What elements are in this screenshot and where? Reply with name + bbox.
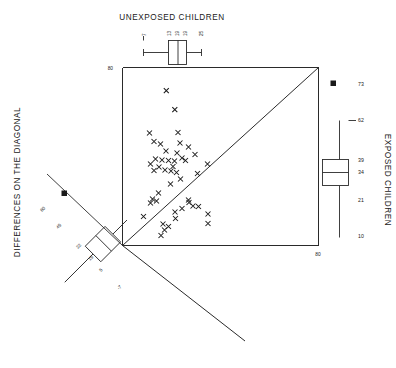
scatter-point: [178, 141, 183, 146]
scatter-point: [168, 182, 173, 187]
top-tick-label-25: 25: [199, 30, 204, 36]
top-axis-title: UNEXPOSED CHILDREN: [119, 13, 224, 22]
scatter-series: [141, 88, 211, 238]
x-axis-max-label: 80: [315, 252, 321, 257]
scatter-point: [206, 221, 211, 226]
scatter-point: [175, 151, 180, 156]
identity-diagonal-line: [123, 68, 319, 246]
scatter-point: [171, 164, 176, 169]
right-tick-label-73: 73: [358, 81, 364, 87]
scatter-point: [153, 157, 158, 162]
scatter-point: [196, 204, 201, 209]
diagonal-tick-label-15: 15: [87, 254, 94, 261]
right-tick-label-39: 39: [358, 157, 364, 163]
right-tick-label-10: 10: [358, 233, 364, 239]
scatter-point: [191, 204, 196, 209]
identity-diagonal-extension: [123, 246, 246, 342]
scatter-point: [152, 168, 157, 173]
right-boxplot: 73 62 39 34 21 10: [323, 81, 364, 239]
diagonal-tick-label-5: 5: [98, 267, 104, 273]
scatter-point: [141, 214, 146, 219]
scatter-point: [206, 212, 211, 217]
scatter-point: [193, 152, 198, 157]
y-axis-max-label: 80: [108, 66, 114, 71]
right-axis-title: EXPOSED CHILDREN: [383, 134, 392, 227]
diagonal-tick-label-60: 60: [39, 205, 46, 212]
diagonal-tick-label-neg7: -7: [116, 284, 123, 291]
scatter-point: [148, 162, 153, 167]
figure-root: 7 13 19 19 25 UNEXPOSED CHILDREN 73 62 3: [0, 0, 396, 368]
diagonal-boxplot-outlier: [62, 191, 67, 196]
scatter-point: [173, 210, 178, 215]
scatter-point: [164, 88, 169, 93]
top-tick-label-13: 13: [167, 30, 172, 36]
scatter-point: [156, 191, 161, 196]
scatter-point: [162, 228, 167, 233]
scatter-point: [180, 156, 185, 161]
scatter-point: [147, 131, 152, 136]
scatter-point: [158, 142, 163, 147]
scatter-plot-with-marginal-boxplots: 7 13 19 19 25 UNEXPOSED CHILDREN 73 62 3: [0, 0, 396, 368]
scatter-point: [174, 170, 179, 175]
diagonal-axis-line: [47, 174, 122, 245]
diagonal-boxplot-whisker-low: [113, 220, 127, 234]
top-boxplot: 7 13 19 19 25: [142, 30, 204, 64]
scatter-point: [180, 206, 185, 211]
scatter-point: [169, 169, 174, 174]
scatter-point: [160, 158, 165, 163]
scatter-point: [205, 162, 210, 167]
scatter-point: [152, 139, 157, 144]
scatter-point: [157, 165, 162, 170]
scatter-point: [161, 222, 166, 227]
scatter-point: [164, 149, 169, 154]
scatter-point: [159, 233, 164, 238]
scatter-point: [183, 158, 188, 163]
scatter-point: [172, 107, 177, 112]
scatter-point: [172, 159, 177, 164]
diagonal-axis-title: DIFFERENCES ON THE DIAGONAL: [13, 107, 22, 257]
scatter-point: [186, 145, 191, 150]
top-tick-label-7: 7: [142, 33, 147, 36]
top-tick-label-19a: 19: [175, 30, 180, 36]
top-tick-label-19b: 19: [183, 30, 188, 36]
right-tick-label-21: 21: [358, 197, 364, 203]
scatter-point: [195, 171, 200, 176]
diagonal-tick-label-45: 45: [55, 222, 62, 229]
scatter-point: [166, 158, 171, 163]
top-boxplot-box: [169, 41, 187, 65]
right-tick-label-34: 34: [358, 169, 364, 175]
diagonal-axis-guides: [47, 174, 122, 245]
right-tick-label-62: 62: [358, 117, 364, 123]
scatter-point: [173, 216, 178, 221]
right-boxplot-outlier: [331, 81, 336, 86]
diagonal-tick-label-22: 22: [75, 242, 82, 249]
scatter-point: [178, 177, 183, 182]
scatter-point: [176, 130, 181, 135]
diagonal-boxplot: [57, 212, 135, 290]
scatter-point: [163, 168, 168, 173]
